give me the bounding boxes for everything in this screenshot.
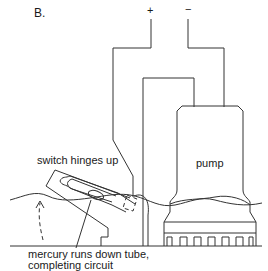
- hinge-arrow: [39, 203, 43, 240]
- negative-terminal-label: −: [185, 3, 191, 15]
- float-switch-pump-diagram: [0, 0, 268, 271]
- mercury-annotation-line2: completing circuit: [28, 260, 149, 271]
- pump-return-wire: [143, 78, 194, 246]
- pump: [164, 106, 256, 246]
- switch-annotation: switch hinges up: [37, 154, 118, 166]
- pump-annotation: pump: [196, 157, 224, 169]
- negative-wire: [188, 19, 224, 107]
- figure-label: B.: [34, 6, 45, 20]
- mercury-annotation: mercury runs down tube, completing circu…: [28, 249, 149, 271]
- positive-wire: [113, 19, 151, 197]
- positive-terminal-label: +: [147, 4, 153, 16]
